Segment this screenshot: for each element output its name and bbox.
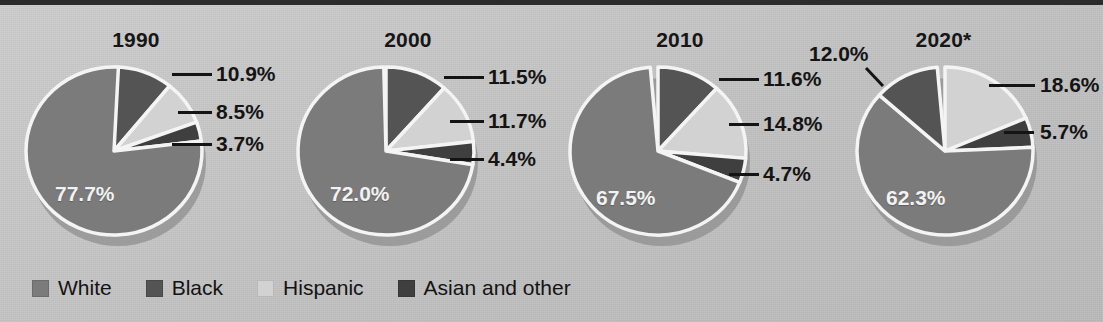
legend-item-asian-and-other: Asian and other: [398, 276, 571, 300]
square-swatch-icon: [257, 280, 274, 297]
pie-2010: [566, 56, 766, 256]
pie-chart-figure: 1990 77.7% 10.9% 8.5% 3.7% 2000 72.0% 11…: [0, 0, 1103, 322]
legend-item-black: Black: [146, 276, 223, 300]
callout-asian-2020: 5.7%: [1040, 120, 1088, 144]
leader-line-asian-1990: [172, 143, 212, 146]
pie-svg-2000: [294, 56, 494, 256]
callout-hispanic-2020: 18.6%: [1040, 73, 1100, 97]
leader-line-black-2000: [444, 76, 484, 79]
callout-hispanic-1990: 8.5%: [216, 100, 264, 124]
top-rule-divider: [0, 0, 1103, 5]
chart-title-2000: 2000: [272, 28, 544, 52]
legend-label-hispanic: Hispanic: [283, 276, 364, 300]
square-swatch-icon: [398, 280, 415, 297]
callout-black-1990: 10.9%: [216, 62, 276, 86]
leader-line-hispanic-1990: [178, 111, 212, 114]
leader-line-black-2010: [719, 78, 759, 81]
legend-item-white: White: [32, 276, 112, 300]
leader-line-black-1990: [172, 73, 212, 76]
callout-asian-2000: 4.4%: [488, 147, 536, 171]
legend-label-black: Black: [172, 276, 223, 300]
leader-line-asian-2000: [450, 158, 484, 161]
slice-label-white-2020: 62.3%: [886, 186, 946, 210]
leader-line-hispanic-2000: [450, 120, 484, 123]
pie-svg-1990: [22, 56, 222, 256]
square-swatch-icon: [146, 280, 163, 297]
chart-title-1990: 1990: [0, 28, 272, 52]
slice-label-white-2000: 72.0%: [330, 182, 390, 206]
legend-label-asian-and-other: Asian and other: [424, 276, 571, 300]
legend-label-white: White: [58, 276, 112, 300]
callout-asian-2010: 4.7%: [763, 162, 811, 186]
chart-panel-1990: 1990 77.7% 10.9% 8.5% 3.7%: [0, 0, 272, 268]
pie-2000: [294, 56, 494, 256]
leader-line-asian-2020: [1004, 131, 1034, 134]
slice-label-white-2010: 67.5%: [596, 186, 656, 210]
legend-item-hispanic: Hispanic: [257, 276, 364, 300]
callout-hispanic-2010: 14.8%: [763, 112, 823, 136]
leader-line-hispanic-2010: [729, 123, 759, 126]
pie-1990: [22, 56, 222, 256]
pie-svg-2010: [566, 56, 766, 256]
legend: White Black Hispanic Asian and other: [32, 276, 571, 300]
slice-label-white-1990: 77.7%: [55, 182, 115, 206]
callout-black-2000: 11.5%: [488, 65, 546, 89]
chart-panel-2010: 2010 67.5% 11.6% 14.8% 4.7%: [544, 0, 816, 268]
leader-line-hispanic-2020: [989, 84, 1035, 87]
chart-panel-2020: 2020* 62.3% 12.0% 18.6% 5.7%: [816, 0, 1103, 268]
callout-black-2010: 11.6%: [763, 67, 821, 91]
callout-hispanic-2000: 11.7%: [488, 109, 546, 133]
leader-line-asian-2010: [729, 173, 759, 176]
square-swatch-icon: [32, 280, 49, 297]
chart-title-2010: 2010: [544, 28, 816, 52]
chart-panel-2000: 2000 72.0% 11.5% 11.7% 4.4%: [272, 0, 544, 268]
callout-black-2020: 12.0%: [809, 42, 869, 66]
callout-asian-1990: 3.7%: [216, 132, 264, 156]
leader-line-black-2020: [864, 66, 890, 92]
